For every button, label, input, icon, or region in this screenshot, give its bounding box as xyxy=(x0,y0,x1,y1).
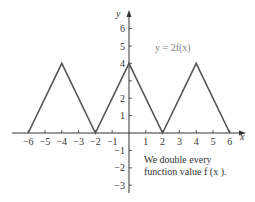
x-tick-label: −3 xyxy=(73,136,84,147)
y-tick-label: 5 xyxy=(120,41,125,52)
x-tick-label: 4 xyxy=(194,136,199,147)
x-tick-label: 3 xyxy=(177,136,182,147)
y-tick-label: −3 xyxy=(114,180,125,191)
y-tick-label: 2 xyxy=(120,93,125,104)
y-tick-label: −2 xyxy=(114,162,125,173)
y-tick-label: 4 xyxy=(120,58,125,69)
y-tick-label: 1 xyxy=(120,110,125,121)
x-axis-label: x xyxy=(239,131,245,142)
chart: −6−5−4−3−2−1123456−3−2−112456 y x y = 2f… xyxy=(0,0,255,202)
x-tick-label: −6 xyxy=(23,136,34,147)
x-tick-label: 5 xyxy=(211,136,216,147)
function-label: y = 2f(x) xyxy=(155,42,191,54)
y-tick-label: 6 xyxy=(120,23,125,34)
x-tick-label: 6 xyxy=(227,136,232,147)
y-axis-label: y xyxy=(115,8,121,19)
y-axis-arrow-icon xyxy=(127,10,132,17)
x-tick-label: −2 xyxy=(90,136,101,147)
x-tick-label: −5 xyxy=(40,136,51,147)
x-tick-label: −4 xyxy=(56,136,67,147)
x-tick-label: 1 xyxy=(143,136,148,147)
x-tick-label: 2 xyxy=(160,136,165,147)
y-tick-label: −1 xyxy=(114,145,125,156)
note-line-2: function value f (x ). xyxy=(144,166,226,178)
note-line-1: We double every xyxy=(144,154,212,165)
